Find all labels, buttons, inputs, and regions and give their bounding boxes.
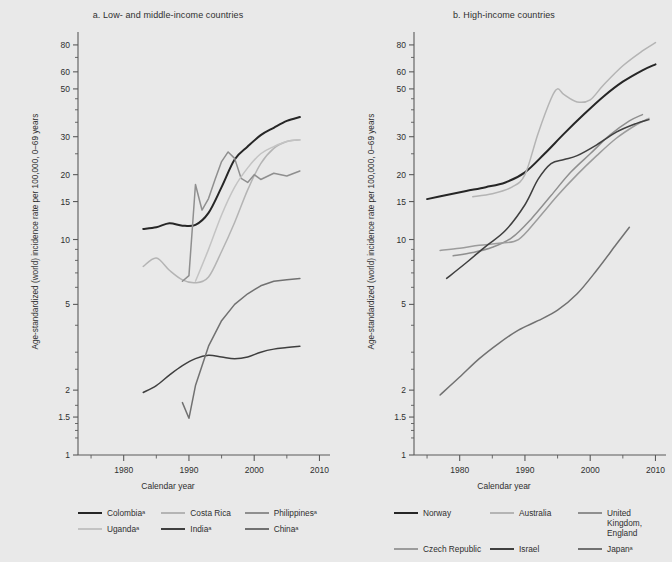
svg-text:5: 5: [401, 299, 406, 309]
panel-a-plot: 11.525101520305060801980199020002010: [0, 0, 336, 500]
legend-item-united-kingdom-england[interactable]: United Kingdom, England: [578, 508, 666, 538]
svg-text:15: 15: [61, 197, 71, 207]
legend-item-japan[interactable]: Japanᵃ: [578, 544, 666, 554]
svg-text:1990: 1990: [515, 465, 534, 475]
svg-text:80: 80: [397, 40, 407, 50]
legend-label: Israel: [519, 544, 539, 554]
legend-label: United Kingdom, England: [607, 508, 666, 538]
svg-text:2010: 2010: [310, 465, 329, 475]
legend-swatch-icon: [245, 528, 269, 530]
legend-item-china[interactable]: Chinaᵃ: [245, 524, 328, 534]
svg-text:1: 1: [401, 450, 406, 460]
legend-item-india[interactable]: Indiaᵃ: [161, 524, 244, 534]
legend-item-uganda[interactable]: Ugandaᵃ: [78, 524, 161, 534]
svg-text:2: 2: [401, 385, 406, 395]
svg-text:20: 20: [397, 170, 407, 180]
svg-text:15: 15: [397, 197, 407, 207]
legend-swatch-icon: [394, 548, 418, 550]
svg-text:2010: 2010: [646, 465, 665, 475]
legend-label: Chinaᵃ: [274, 524, 299, 534]
legend-label: Norway: [423, 508, 451, 518]
legend-swatch-icon: [490, 512, 514, 514]
svg-text:10: 10: [61, 235, 71, 245]
legend-label: Colombiaᵃ: [107, 508, 145, 518]
svg-text:1.5: 1.5: [394, 412, 406, 422]
legend-swatch-icon: [78, 512, 102, 514]
legend-label: Indiaᵃ: [190, 524, 211, 534]
panel-b-legend: NorwayAustraliaUnited Kingdom, EnglandCz…: [394, 508, 666, 560]
legend-row: UgandaᵃIndiaᵃChinaᵃ: [78, 524, 328, 534]
legend-swatch-icon: [578, 512, 602, 514]
svg-text:1.5: 1.5: [58, 412, 70, 422]
svg-text:1990: 1990: [179, 465, 198, 475]
legend-row: Czech RepublicIsraelJapanᵃ: [394, 544, 666, 554]
legend-label: Japanᵃ: [607, 544, 633, 554]
svg-text:1980: 1980: [450, 465, 469, 475]
svg-text:60: 60: [397, 67, 407, 77]
svg-text:1980: 1980: [114, 465, 133, 475]
legend-item-philippines[interactable]: Philippinesᵃ: [245, 508, 328, 518]
svg-text:60: 60: [61, 67, 71, 77]
legend-row: ColombiaᵃCosta RicaPhilippinesᵃ: [78, 508, 328, 518]
legend-swatch-icon: [578, 548, 602, 550]
svg-text:10: 10: [397, 235, 407, 245]
svg-text:20: 20: [61, 170, 71, 180]
legend-label: Australia: [519, 508, 551, 518]
figure-root: a. Low- and middle-income countries Age-…: [0, 0, 672, 562]
panel-b-plot: 11.525101520305060801980199020002010: [336, 0, 672, 500]
legend-label: Ugandaᵃ: [107, 524, 139, 534]
legend-item-israel[interactable]: Israel: [490, 544, 578, 554]
legend-item-australia[interactable]: Australia: [490, 508, 578, 518]
svg-text:2: 2: [65, 385, 70, 395]
legend-swatch-icon: [394, 512, 418, 514]
svg-text:1: 1: [65, 450, 70, 460]
legend-row: NorwayAustraliaUnited Kingdom, England: [394, 508, 666, 538]
legend-swatch-icon: [161, 528, 185, 530]
svg-text:80: 80: [61, 40, 71, 50]
svg-text:50: 50: [397, 84, 407, 94]
svg-text:5: 5: [65, 299, 70, 309]
svg-text:50: 50: [61, 84, 71, 94]
legend-item-norway[interactable]: Norway: [394, 508, 490, 518]
legend-item-costa-rica[interactable]: Costa Rica: [161, 508, 244, 518]
legend-item-colombia[interactable]: Colombiaᵃ: [78, 508, 161, 518]
legend-swatch-icon: [245, 512, 269, 514]
panel-a-legend: ColombiaᵃCosta RicaPhilippinesᵃUgandaᵃIn…: [78, 508, 328, 540]
legend-item-czech-republic[interactable]: Czech Republic: [394, 544, 490, 554]
legend-swatch-icon: [78, 528, 102, 530]
legend-swatch-icon: [161, 512, 185, 514]
legend-label: Philippinesᵃ: [274, 508, 317, 518]
svg-text:2000: 2000: [581, 465, 600, 475]
legend-label: Czech Republic: [423, 544, 481, 554]
legend-label: Costa Rica: [190, 508, 231, 518]
legend-swatch-icon: [490, 548, 514, 550]
svg-text:2000: 2000: [245, 465, 264, 475]
panel-a: a. Low- and middle-income countries Age-…: [0, 0, 336, 562]
panel-b: b. High-income countries Age-standardize…: [336, 0, 672, 562]
svg-text:30: 30: [397, 132, 407, 142]
svg-text:30: 30: [61, 132, 71, 142]
